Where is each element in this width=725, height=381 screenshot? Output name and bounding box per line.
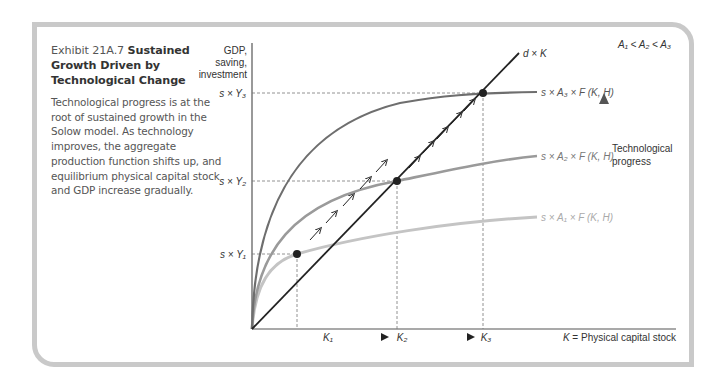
- x-tick-k2: K₂: [397, 332, 408, 343]
- tech-progress-label-2: progress: [612, 156, 651, 167]
- ordering-annotation: A₁ < A₂ < A₃: [617, 39, 671, 50]
- depreciation-line: [252, 53, 519, 329]
- tech-progress-label-1: Technological: [612, 143, 673, 154]
- solow-diagram: GDP, saving, investment s × Y₃ s × Y₂ s …: [0, 0, 725, 381]
- depreciation-label: d × K: [523, 48, 548, 59]
- x-axis-label: K = Physical capital stock: [563, 332, 677, 343]
- curve-a3: [252, 92, 537, 329]
- curve-a1-label: s × A₁ × F (K, H): [541, 212, 613, 223]
- x-tick-k1: K₁: [323, 332, 333, 343]
- x-tick-k3: K₃: [481, 332, 492, 343]
- y-tick-sy3: s × Y₃: [219, 88, 246, 99]
- y-axis-label-3: investment: [199, 69, 248, 80]
- y-tick-sy1: s × Y₁: [220, 249, 246, 260]
- equilibrium-point-3: [479, 89, 487, 97]
- curve-a2-label: s × A₂ × F (K, H): [541, 151, 614, 162]
- y-axis-label-1: GDP,: [224, 45, 247, 56]
- curve-a1: [252, 217, 537, 329]
- curve-a3-label: s × A₃ × F (K, H): [541, 87, 614, 98]
- equilibrium-point-1: [293, 250, 301, 258]
- y-axis-label-2: saving,: [215, 57, 247, 68]
- equilibrium-point-2: [393, 177, 401, 185]
- y-tick-sy2: s × Y₂: [219, 176, 246, 187]
